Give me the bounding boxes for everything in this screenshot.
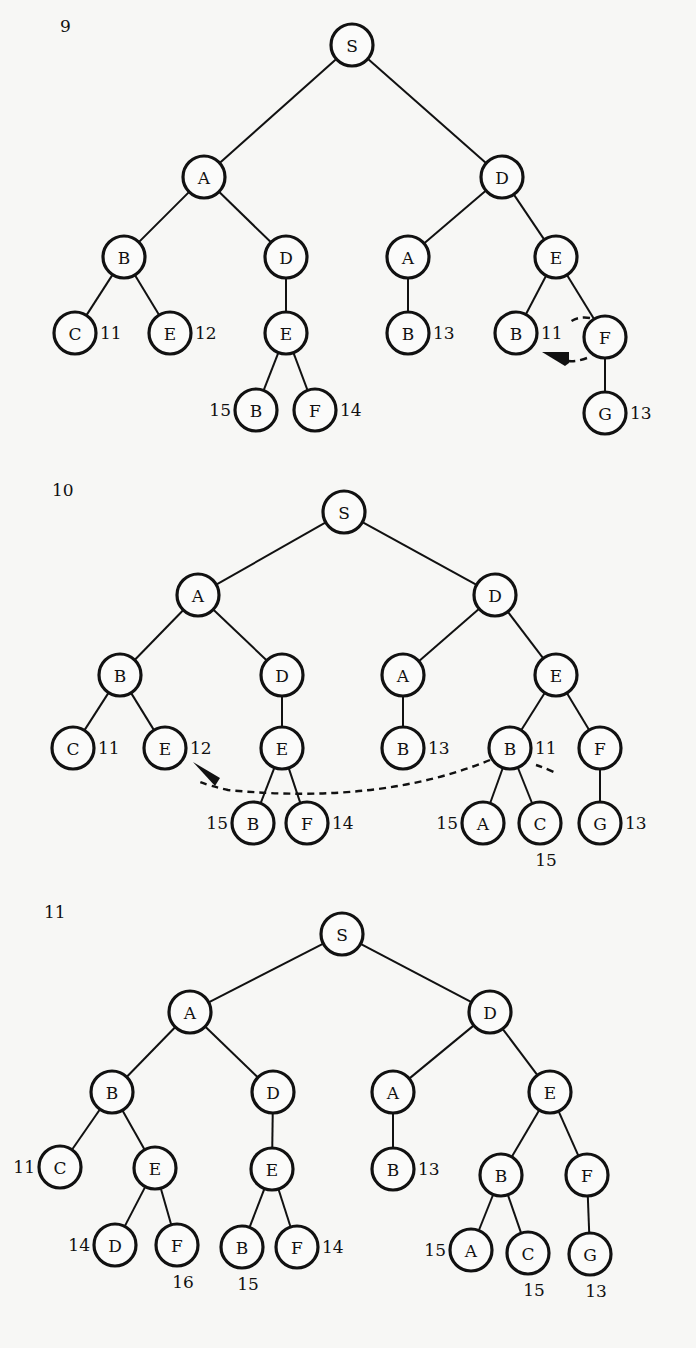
search-tree-diagrams: SADBDAEC11E12EB13B11FB15F14G13SADBDAEC11… bbox=[0, 0, 696, 1348]
tree-node-s: S bbox=[331, 24, 373, 66]
backtrack-arrow-9 bbox=[570, 318, 590, 323]
svg-text:D: D bbox=[275, 666, 289, 686]
tree-edge bbox=[293, 353, 307, 391]
svg-text:A: A bbox=[197, 168, 211, 188]
tree-edge bbox=[514, 194, 545, 239]
tree-node-b: B bbox=[221, 1226, 263, 1268]
node-cost-label: 11 bbox=[535, 738, 557, 758]
node-cost-label: 11 bbox=[98, 738, 120, 758]
edges-layer bbox=[72, 59, 605, 1233]
svg-text:F: F bbox=[599, 328, 611, 348]
tree-edge bbox=[209, 944, 324, 1003]
tree-node-f: F bbox=[156, 1224, 198, 1266]
tree-node-b: B bbox=[382, 727, 424, 769]
tree-edge bbox=[490, 768, 503, 803]
tree-edge bbox=[213, 609, 267, 660]
tree-node-c: C bbox=[39, 1146, 81, 1188]
tree-edge bbox=[503, 1029, 538, 1075]
tree-edge bbox=[250, 1189, 265, 1228]
node-cost-label: 13 bbox=[625, 813, 647, 833]
tree-node-d: D bbox=[481, 156, 523, 198]
svg-text:B: B bbox=[510, 324, 523, 344]
svg-text:A: A bbox=[396, 666, 410, 686]
tree-node-e: E bbox=[535, 236, 577, 278]
tree-edge bbox=[264, 353, 279, 391]
svg-text:F: F bbox=[309, 401, 321, 421]
node-cost-label: 11 bbox=[541, 323, 563, 343]
tree-edge bbox=[362, 522, 476, 585]
svg-text:D: D bbox=[495, 168, 509, 188]
svg-text:F: F bbox=[581, 1166, 593, 1186]
tree-node-e: E bbox=[535, 654, 577, 696]
tree-node-f: F bbox=[584, 316, 626, 358]
node-cost-label: 13 bbox=[630, 403, 652, 423]
svg-text:E: E bbox=[159, 739, 171, 759]
node-cost-label: 11 bbox=[100, 323, 122, 343]
svg-text:B: B bbox=[106, 1083, 119, 1103]
tree-node-c: C bbox=[507, 1232, 549, 1274]
tree-edge bbox=[220, 59, 337, 163]
tree-node-g: G bbox=[579, 802, 621, 844]
tree-node-b: B bbox=[480, 1154, 522, 1196]
node-cost-label: 14 bbox=[332, 813, 354, 833]
tree-edge bbox=[567, 693, 589, 730]
tree-edge bbox=[361, 944, 472, 1002]
svg-text:D: D bbox=[108, 1236, 122, 1256]
svg-text:F: F bbox=[301, 814, 313, 834]
svg-text:C: C bbox=[533, 814, 546, 834]
tree-node-e: E bbox=[265, 312, 307, 354]
tree-node-b: B bbox=[489, 727, 531, 769]
tree-node-d: D bbox=[265, 236, 307, 278]
tree-node-c: C bbox=[52, 727, 94, 769]
tree-edge bbox=[139, 192, 189, 242]
tree-node-f: F bbox=[579, 727, 621, 769]
svg-text:B: B bbox=[118, 248, 131, 268]
svg-text:S: S bbox=[338, 503, 350, 523]
tree-node-b: B bbox=[235, 389, 277, 431]
svg-text:B: B bbox=[114, 666, 127, 686]
tree-node-b: B bbox=[387, 312, 429, 354]
tree-edge bbox=[84, 693, 108, 731]
tree-node-s: S bbox=[323, 491, 365, 533]
svg-text:B: B bbox=[236, 1238, 249, 1258]
svg-text:G: G bbox=[593, 814, 607, 834]
svg-text:A: A bbox=[464, 1241, 478, 1261]
tree-edge bbox=[588, 1196, 589, 1233]
tree-edge bbox=[127, 1027, 176, 1077]
tree-node-a: A bbox=[183, 156, 225, 198]
arrowhead-icon bbox=[193, 762, 220, 786]
tree-node-s: S bbox=[321, 913, 363, 955]
tree-edge bbox=[161, 1188, 171, 1225]
tree-edge bbox=[518, 767, 532, 803]
svg-text:S: S bbox=[336, 925, 348, 945]
tree-node-a: A bbox=[169, 991, 211, 1033]
svg-text:B: B bbox=[504, 739, 517, 759]
node-cost-label: 15 bbox=[206, 813, 228, 833]
svg-text:B: B bbox=[247, 814, 260, 834]
svg-text:A: A bbox=[191, 586, 205, 606]
svg-text:F: F bbox=[594, 739, 606, 759]
tree-edge bbox=[135, 275, 159, 315]
node-cost-label: 14 bbox=[340, 400, 362, 420]
svg-text:E: E bbox=[276, 739, 288, 759]
node-cost-label: 13 bbox=[428, 738, 450, 758]
node-cost-label: 15 bbox=[523, 1280, 545, 1300]
tree-node-c: C bbox=[54, 312, 96, 354]
tree-node-a: A bbox=[177, 574, 219, 616]
tree-edge bbox=[205, 1027, 258, 1078]
tree-edge bbox=[521, 693, 545, 730]
tree-node-e: E bbox=[251, 1148, 293, 1190]
tree-node-b: B bbox=[103, 236, 145, 278]
node-cost-label: 15 bbox=[237, 1274, 259, 1294]
tree-edge bbox=[479, 1194, 493, 1230]
svg-text:B: B bbox=[495, 1166, 508, 1186]
node-cost-label: 15 bbox=[436, 813, 458, 833]
tree-node-f: F bbox=[286, 802, 328, 844]
tree-edge bbox=[567, 275, 594, 319]
node-cost-label: 15 bbox=[209, 400, 231, 420]
node-cost-label: 13 bbox=[585, 1281, 607, 1301]
svg-text:D: D bbox=[279, 248, 293, 268]
backtrack-arrow-10-right bbox=[536, 765, 556, 773]
tree-edge bbox=[289, 768, 301, 803]
tree-node-e: E bbox=[261, 727, 303, 769]
